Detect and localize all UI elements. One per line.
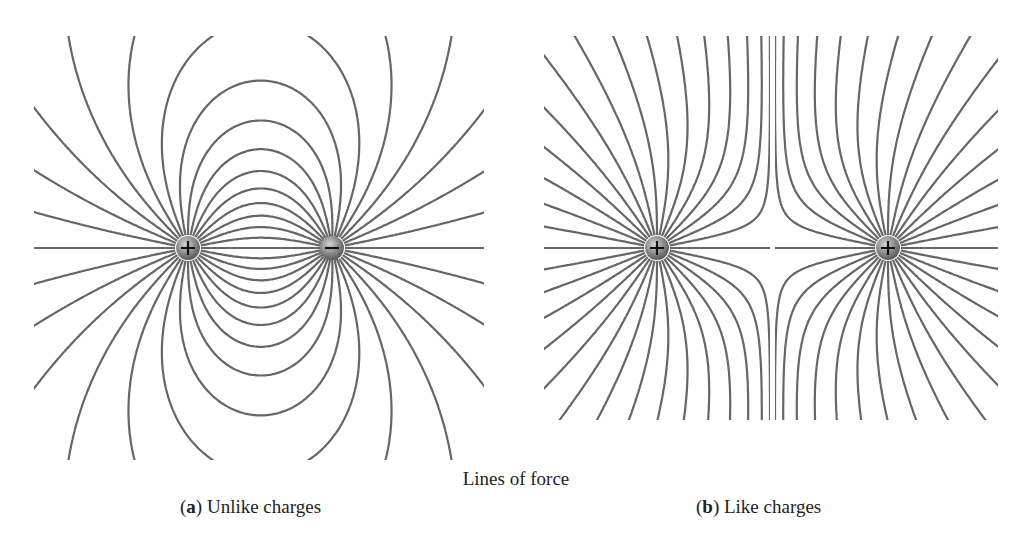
field-line (339, 16, 391, 237)
field-line (524, 87, 650, 237)
field-line (343, 255, 504, 414)
panel-b-like-charges (523, 15, 1020, 441)
field-line (129, 16, 181, 237)
field-line (197, 203, 324, 240)
field-line (775, 15, 875, 245)
field-line (129, 259, 181, 480)
field-line (13, 253, 176, 339)
field-line (13, 157, 176, 243)
negative-charge (320, 236, 344, 260)
field-line (670, 15, 770, 245)
field-line (345, 207, 505, 246)
field-line (888, 15, 941, 235)
field-line (524, 259, 650, 409)
field-line (344, 253, 504, 338)
caption-b: (b) Like charges (696, 496, 821, 518)
caption-a: (a) Unlike charges (180, 496, 321, 518)
panel-a-unlike-charges (13, 15, 506, 482)
field-line (343, 82, 504, 241)
caption-a-letter: a (186, 496, 196, 517)
field-line (895, 259, 1018, 406)
field-line (666, 257, 730, 440)
field-line (604, 15, 657, 235)
caption-a-text: Unlike charges (207, 496, 321, 517)
field-line (13, 255, 177, 418)
field-line (201, 250, 321, 258)
field-line (652, 261, 668, 440)
field-line (197, 257, 324, 294)
field-line (662, 260, 688, 440)
field-line (895, 90, 1018, 237)
field-lines-a (13, 15, 506, 482)
field-line (344, 158, 504, 243)
field-line (815, 257, 879, 440)
caption-b-text: Like charges (724, 496, 821, 517)
field-line (14, 206, 176, 245)
field-line (345, 251, 505, 290)
field-line (201, 238, 321, 246)
field-lines-b-right (772, 15, 1020, 441)
field-line (13, 78, 177, 241)
field-lines-b-left (523, 15, 774, 441)
caption-b-letter: b (702, 496, 713, 517)
field-line (815, 16, 879, 239)
lines-of-force-diagram (0, 0, 1032, 546)
field-line (14, 251, 176, 290)
positive-charge (176, 236, 200, 260)
positive-charge (876, 236, 900, 260)
positive-charge (645, 236, 669, 260)
field-line (666, 16, 730, 239)
field-line (339, 259, 391, 480)
field-line (877, 261, 893, 440)
figure-title: Lines of force (0, 468, 1032, 490)
field-line (858, 260, 884, 440)
